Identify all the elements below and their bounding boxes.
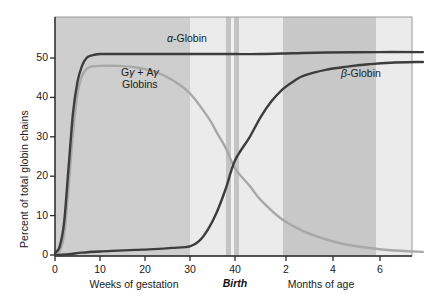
y-tick-label-20: 20 — [20, 169, 48, 181]
background-band-3 — [231, 17, 234, 256]
background-band-0 — [55, 17, 190, 256]
x-axis-title-months: Months of age — [246, 278, 396, 290]
x-axis-title-gestation: Weeks of gestation — [48, 278, 220, 290]
y-tick-label-0: 0 — [20, 248, 48, 260]
y-tick-label-50: 50 — [20, 51, 48, 63]
chart-canvas — [0, 0, 434, 306]
x-tick-label-week-40: 40 — [222, 263, 248, 275]
series-label-beta-globin: β-Globin — [341, 68, 381, 80]
x-tick-label-week-10: 10 — [87, 263, 113, 275]
y-axis-title-container: Percent of total globin chains — [0, 0, 22, 260]
x-tick-label-month-4: 4 — [320, 263, 346, 275]
x-tick-label-week-30: 30 — [177, 263, 203, 275]
y-tick-label-10: 10 — [20, 209, 48, 221]
y-tick-label-40: 40 — [20, 90, 48, 102]
background-band-4 — [234, 17, 239, 256]
globin-chain-switching-chart: Percent of total globin chains 010203040… — [0, 0, 434, 306]
x-tick-label-week-0: 0 — [42, 263, 68, 275]
x-tick-label-week-20: 20 — [132, 263, 158, 275]
x-tick-label-month-6: 6 — [367, 263, 393, 275]
x-tick-label-month-2: 2 — [273, 263, 299, 275]
y-tick-label-30: 30 — [20, 130, 48, 142]
series-label-alpha-globin: α-Globin — [167, 33, 207, 45]
background-band-2 — [226, 17, 231, 256]
birth-marker-label: Birth — [206, 277, 264, 289]
series-label-gamma-globins: Gγ + AγGlobins — [121, 67, 159, 90]
background-band-1 — [190, 17, 226, 256]
